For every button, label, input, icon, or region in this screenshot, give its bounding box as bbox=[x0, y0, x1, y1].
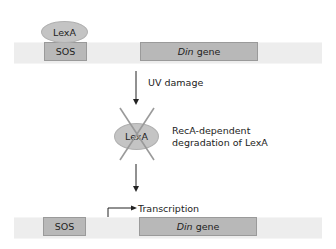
uv-damage-label: UV damage bbox=[148, 77, 203, 88]
sos-label: SOS bbox=[55, 221, 75, 232]
degradation-label-line1: RecA-dependent bbox=[172, 125, 250, 136]
degradation-label-line2: degradation of LexA bbox=[172, 137, 268, 148]
din-gene-label: Din gene bbox=[177, 221, 220, 232]
sos-label: SOS bbox=[56, 46, 76, 57]
lexa-label: LexA bbox=[53, 27, 76, 38]
din-gene-label: Din gene bbox=[178, 46, 221, 57]
transcription-label: Transcription bbox=[138, 203, 199, 214]
arrow-down-icon bbox=[130, 163, 142, 193]
sos-box-bottom: SOS bbox=[43, 217, 86, 236]
cross-icon bbox=[116, 106, 158, 162]
din-gene-box-top: Din gene bbox=[140, 42, 258, 61]
lexa-repressor-bound: LexA bbox=[41, 21, 88, 43]
din-gene-box-bottom: Din gene bbox=[139, 217, 257, 236]
arrow-down-icon bbox=[130, 70, 142, 106]
sos-box-top: SOS bbox=[44, 42, 87, 61]
promoter-arrow-icon bbox=[106, 204, 140, 218]
